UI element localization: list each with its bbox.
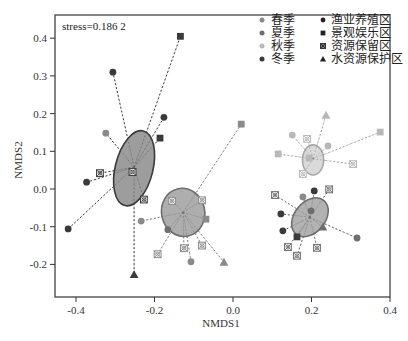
- circle-marker-icon: [354, 235, 361, 242]
- circle-marker-icon: [188, 258, 195, 265]
- y-tick-label: 0.0: [33, 183, 47, 195]
- crossed-square-marker-icon: [326, 186, 333, 193]
- x-tick-label: -0.2: [146, 304, 163, 316]
- circle-marker-icon: [325, 143, 332, 150]
- legend-season-dot-icon: [260, 57, 265, 62]
- square-marker-icon: [157, 135, 164, 142]
- circle-marker-icon: [65, 226, 72, 233]
- x-tick-label: 0.4: [383, 304, 397, 316]
- square-marker-icon: [321, 31, 326, 36]
- crossed-square-marker-icon: [169, 198, 176, 205]
- legend: 春季夏季秋季冬季渔业养殖区景观娱乐区资源保留区水资源保护区: [260, 12, 404, 66]
- crossed-square-marker-icon: [272, 192, 279, 199]
- circle-marker-icon: [109, 69, 116, 76]
- circle-marker-icon: [138, 218, 145, 225]
- crossed-square-marker-icon: [299, 171, 306, 178]
- crossed-square-marker-icon: [294, 252, 301, 259]
- legend-zone-label: 资源保留区: [331, 39, 391, 53]
- series-group: [275, 111, 384, 178]
- y-tick-label: 0.2: [33, 108, 47, 120]
- x-axis-title: NMDS1: [202, 317, 239, 329]
- legend-zone-label: 渔业养殖区: [331, 12, 391, 27]
- circle-marker-icon: [289, 132, 296, 139]
- y-tick-label: 0.1: [33, 145, 47, 157]
- circle-marker-icon: [277, 210, 284, 217]
- axes: -0.4-0.20.00.20.4-0.2-0.10.00.10.20.30.4: [30, 32, 398, 316]
- circle-marker-icon: [308, 207, 315, 214]
- crossed-square-marker-icon: [314, 244, 321, 251]
- legend-zone-label: 水资源保护区: [331, 52, 403, 66]
- crossed-square-marker-icon: [129, 169, 136, 176]
- y-tick-label: -0.2: [30, 258, 47, 270]
- circle-marker-icon: [164, 226, 171, 233]
- square-marker-icon: [238, 121, 245, 128]
- legend-season-label: 秋季: [271, 39, 295, 53]
- stress-annotation: stress=0.186 2: [62, 20, 126, 32]
- crossed-square-marker-icon: [350, 161, 357, 168]
- square-marker-icon: [306, 155, 313, 162]
- crossed-square-marker-icon: [141, 196, 148, 203]
- crossed-square-marker-icon: [97, 170, 104, 177]
- nmds-ordination-chart: -0.4-0.20.00.20.4-0.2-0.10.00.10.20.30.4…: [0, 0, 408, 341]
- triangle-marker-icon: [320, 56, 326, 62]
- legend-zone-label: 景观娱乐区: [331, 26, 391, 40]
- triangle-marker-icon: [130, 270, 139, 278]
- x-tick-label: 0.2: [305, 304, 319, 316]
- legend-season-dot-icon: [260, 18, 265, 23]
- crossed-square-marker-icon: [199, 242, 206, 249]
- y-tick-label: -0.1: [30, 221, 47, 233]
- square-marker-icon: [275, 151, 282, 158]
- y-tick-label: 0.3: [33, 70, 47, 82]
- crossed-square-marker-icon: [304, 135, 311, 142]
- legend-season-dot-icon: [260, 31, 265, 36]
- legend-season-label: 夏季: [271, 26, 295, 40]
- circle-marker-icon: [299, 194, 306, 201]
- y-tick-label: 0.4: [33, 32, 47, 44]
- series-group: [138, 121, 245, 266]
- crossed-square-marker-icon: [321, 44, 326, 49]
- circle-marker-icon: [321, 18, 326, 23]
- square-marker-icon: [377, 129, 384, 136]
- y-axis-title: NMDS2: [12, 141, 24, 178]
- circle-marker-icon: [83, 179, 90, 186]
- x-tick-label: 0.0: [226, 304, 240, 316]
- legend-season-label: 春季: [271, 13, 295, 27]
- legend-season-dot-icon: [260, 44, 265, 49]
- plot-area: [65, 33, 384, 278]
- square-marker-icon: [203, 216, 210, 223]
- circle-marker-icon: [279, 227, 286, 234]
- x-tick-label: -0.4: [67, 304, 85, 316]
- crossed-square-marker-icon: [199, 197, 206, 204]
- legend-season-label: 冬季: [271, 51, 295, 66]
- circle-marker-icon: [311, 187, 318, 194]
- circle-marker-icon: [161, 114, 168, 121]
- crossed-square-marker-icon: [285, 244, 292, 251]
- square-marker-icon: [294, 233, 301, 240]
- square-marker-icon: [177, 33, 184, 40]
- triangle-marker-icon: [322, 111, 331, 119]
- series-group: [272, 186, 361, 259]
- circle-marker-icon: [102, 130, 109, 137]
- crossed-square-marker-icon: [154, 251, 161, 258]
- crossed-square-marker-icon: [181, 245, 188, 252]
